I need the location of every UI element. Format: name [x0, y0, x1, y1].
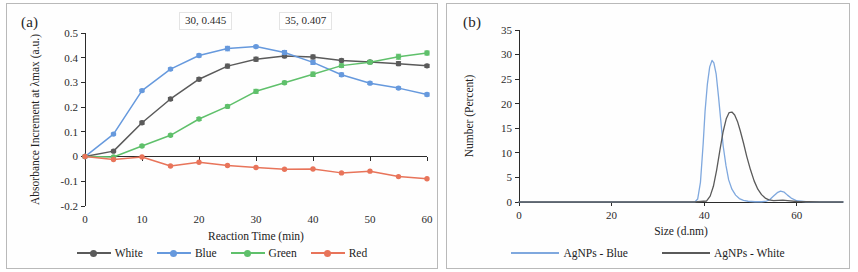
y-axis-title-b: Number (Percent)	[463, 74, 476, 157]
data-point-marker	[310, 72, 315, 77]
legend-label: Green	[269, 248, 297, 260]
data-point-marker	[424, 50, 429, 55]
chart-b-canvas: 051015202530350204060Size (d.nm)Number (…	[447, 4, 851, 244]
x-tick-label-a: 10	[137, 213, 149, 225]
data-point-marker	[196, 116, 201, 121]
chart-a-canvas: -0.2-0.100.10.20.30.40.50102030405060Rea…	[7, 4, 439, 244]
figure-root: (a) 30, 0.445 35, 0.407 -0.2-0.100.10.20…	[0, 0, 858, 272]
distribution-curve	[519, 112, 843, 202]
data-point-marker	[168, 133, 173, 138]
legend-item-agnps-blue[interactable]: AgNPs - Blue	[511, 248, 628, 260]
data-point-marker	[424, 63, 429, 68]
data-point-marker	[396, 54, 401, 59]
data-point-marker	[396, 61, 401, 66]
distribution-curve	[519, 60, 843, 202]
x-tick-label-b: 60	[791, 209, 803, 221]
y-tick-label-b: 20	[501, 98, 513, 110]
data-point-marker	[424, 92, 429, 97]
x-tick-label-a: 30	[251, 213, 263, 225]
legend-swatch-icon	[231, 248, 265, 258]
data-point-marker	[253, 56, 258, 61]
data-point-marker	[367, 80, 372, 85]
y-tick-label-b: 25	[501, 73, 513, 85]
series-line	[85, 53, 427, 157]
y-tick-label-a: -0.1	[61, 175, 78, 187]
data-point-marker	[139, 143, 144, 148]
y-tick-label-a: 0.4	[64, 52, 78, 64]
x-tick-label-a: 40	[308, 213, 320, 225]
data-point-marker	[282, 80, 287, 85]
data-point-marker	[225, 63, 230, 68]
legend-label: White	[115, 248, 143, 260]
legend-item-blue[interactable]: Blue	[157, 248, 217, 260]
panel-a-tag: (a)	[21, 14, 38, 31]
data-point-marker	[168, 163, 173, 168]
data-point-marker	[225, 46, 230, 51]
legend-swatch-icon	[662, 248, 710, 258]
data-point-marker	[111, 148, 116, 153]
panel-a: (a) 30, 0.445 35, 0.407 -0.2-0.100.10.20…	[6, 3, 438, 269]
data-point-marker	[367, 59, 372, 64]
data-point-marker	[196, 77, 201, 82]
legend-label: AgNPs - White	[714, 248, 785, 260]
data-point-marker	[111, 157, 116, 162]
data-point-marker	[339, 170, 344, 175]
data-point-marker	[196, 53, 201, 58]
series-green	[82, 50, 429, 159]
x-tick-label-b: 20	[606, 209, 618, 221]
data-point-marker	[168, 66, 173, 71]
dist-series-agnps-white	[519, 112, 843, 202]
legend-label: AgNPs - Blue	[563, 248, 628, 260]
legend-item-green[interactable]: Green	[231, 248, 297, 260]
series-line	[85, 56, 427, 157]
annotation-white-peak: 35, 0.407	[279, 12, 332, 30]
panel-b: (b) 051015202530350204060Size (d.nm)Numb…	[446, 3, 850, 269]
legend-label: Red	[349, 248, 368, 260]
legend-label: Blue	[195, 248, 217, 260]
data-point-marker	[282, 50, 287, 55]
data-point-marker	[339, 58, 344, 63]
data-point-marker	[139, 154, 144, 159]
y-tick-label-b: 30	[501, 48, 513, 60]
data-point-marker	[253, 165, 258, 170]
x-tick-label-b: 0	[516, 209, 522, 221]
data-point-marker	[225, 163, 230, 168]
data-point-marker	[253, 89, 258, 94]
y-tick-label-b: 35	[501, 24, 513, 36]
chart-a-plot: -0.2-0.100.10.20.30.40.50102030405060Rea…	[29, 27, 433, 243]
data-point-marker	[310, 60, 315, 65]
y-tick-label-b: 0	[507, 196, 513, 208]
data-point-marker	[282, 166, 287, 171]
series-line	[85, 47, 427, 157]
legend-swatch-icon	[511, 248, 559, 258]
x-axis-title-b: Size (d.nm)	[654, 225, 708, 238]
legend-panel-a: WhiteBlueGreenRed	[7, 248, 437, 260]
x-tick-label-a: 20	[194, 213, 206, 225]
legend-swatch-icon	[311, 248, 345, 258]
y-axis-title-a: Absorbance Increment at λmax (a.u.)	[29, 34, 42, 205]
data-point-marker	[310, 166, 315, 171]
x-tick-label-a: 0	[82, 213, 88, 225]
x-tick-label-a: 60	[422, 213, 434, 225]
y-tick-label-b: 10	[501, 147, 513, 159]
data-point-marker	[339, 63, 344, 68]
data-point-marker	[82, 154, 87, 159]
data-point-marker	[396, 174, 401, 179]
legend-swatch-icon	[77, 248, 111, 258]
data-point-marker	[139, 120, 144, 125]
data-point-marker	[111, 131, 116, 136]
y-tick-label-a: 0.5	[64, 27, 78, 39]
data-point-marker	[424, 176, 429, 181]
x-axis-title-a: Reaction Time (min)	[208, 230, 304, 243]
annotation-blue-peak: 30, 0.445	[179, 12, 232, 30]
data-point-marker	[310, 54, 315, 59]
data-point-marker	[139, 88, 144, 93]
legend-item-red[interactable]: Red	[311, 248, 368, 260]
data-point-marker	[196, 160, 201, 165]
y-tick-label-a: 0	[73, 150, 79, 162]
legend-item-white[interactable]: White	[77, 248, 143, 260]
y-tick-label-a: 0.1	[64, 126, 78, 138]
y-tick-label-b: 5	[507, 171, 513, 183]
legend-item-agnps-white[interactable]: AgNPs - White	[662, 248, 785, 260]
data-point-marker	[225, 104, 230, 109]
